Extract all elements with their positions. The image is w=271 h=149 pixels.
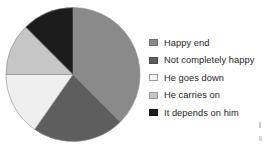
legend-swatch-not-completely-happy: [149, 57, 158, 64]
scan-artifact-mark: [259, 122, 261, 128]
pie-chart-svg: [4, 5, 144, 147]
legend-label-he-carries-on: He carries on: [164, 90, 220, 100]
legend-label-it-depends-on-him: It depends on him: [164, 108, 239, 118]
legend-swatch-happy-end: [149, 39, 158, 46]
legend-item-not-completely-happy[interactable]: Not completely happy: [149, 52, 269, 70]
pie-slice-group: [6, 7, 140, 141]
legend-label-not-completely-happy: Not completely happy: [164, 55, 254, 65]
pie-chart-figure: Happy end Not completely happy He goes d…: [0, 0, 271, 149]
legend-swatch-it-depends-on-him: [149, 109, 158, 116]
legend-item-he-goes-down[interactable]: He goes down: [149, 69, 269, 87]
legend-item-happy-end[interactable]: Happy end: [149, 34, 269, 52]
scan-artifact-mark: [259, 136, 262, 141]
chart-legend: Happy end Not completely happy He goes d…: [149, 34, 269, 122]
legend-item-it-depends-on-him[interactable]: It depends on him: [149, 104, 269, 122]
legend-label-he-goes-down: He goes down: [164, 73, 224, 83]
legend-label-happy-end: Happy end: [164, 38, 209, 48]
legend-item-he-carries-on[interactable]: He carries on: [149, 87, 269, 105]
legend-swatch-he-goes-down: [149, 74, 158, 81]
legend-swatch-he-carries-on: [149, 92, 158, 99]
pie-chart-plot-area: [4, 5, 144, 147]
